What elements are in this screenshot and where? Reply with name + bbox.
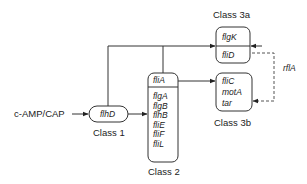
class2-top-gene: fliA bbox=[153, 76, 165, 85]
class3b-gene-list: fliC motA tar bbox=[222, 76, 242, 109]
class3b-gene: motA bbox=[222, 87, 242, 98]
edge-rfla-dashed bbox=[252, 53, 274, 101]
class2-gene-list: flgA flgB flhB fliE fliF fliL bbox=[153, 92, 168, 150]
class3a-title: Class 3a bbox=[213, 10, 250, 20]
class3b-gene: fliC bbox=[222, 76, 242, 87]
feedback-label: rflA bbox=[283, 64, 296, 73]
class3a-gene-fliD: fliD bbox=[222, 51, 234, 60]
class1-gene: flhD bbox=[100, 110, 115, 119]
class1-title: Class 1 bbox=[93, 128, 125, 138]
input-label: c-AMP/CAP bbox=[14, 109, 65, 119]
class3b-gene: tar bbox=[222, 98, 242, 109]
class2-gene: fliL bbox=[153, 140, 168, 150]
class3a-gene-flgK: flgK bbox=[222, 33, 237, 42]
class2-title: Class 2 bbox=[148, 167, 180, 177]
class3b-title: Class 3b bbox=[214, 118, 251, 128]
